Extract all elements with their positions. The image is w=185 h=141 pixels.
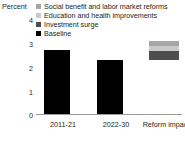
legend-label-social-labor: Social benefit and labor market reforms xyxy=(44,2,168,11)
legend-item-social-labor: Social benefit and labor market reforms xyxy=(36,2,185,11)
x-label-reform-impact: Reform impact xyxy=(135,120,185,130)
y-tick-4: 4 xyxy=(1,17,33,25)
bar-2011-21 xyxy=(44,50,70,114)
chart-container: Percent Social benefit and labor market … xyxy=(0,0,185,141)
y-tick-0: 0 xyxy=(1,112,33,120)
y-tick-1: 1 xyxy=(1,89,33,97)
legend-swatch-social-labor xyxy=(36,4,41,9)
bar-segment-investment-surge xyxy=(149,51,179,60)
y-tick-2: 2 xyxy=(1,65,33,73)
bar-2022-30 xyxy=(97,60,123,114)
bar-reform-impact xyxy=(149,41,179,59)
x-axis-line xyxy=(36,114,182,115)
plot-area xyxy=(36,17,182,115)
y-axis-ticks: 4 3 2 1 0 xyxy=(0,0,33,141)
y-tick-3: 3 xyxy=(1,41,33,49)
x-axis-labels: 2011-21 2022-30 Reform impact xyxy=(33,120,185,134)
x-label-2011-21: 2011-21 xyxy=(33,120,93,130)
